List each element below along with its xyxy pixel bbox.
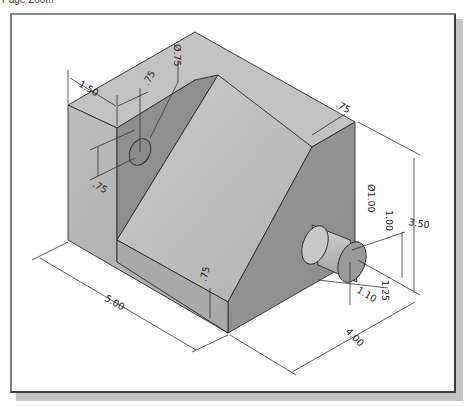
isometric-drawing: 1.50 .75 Ø.75 .75 .75 Ø1.00 1.00 3.50 1.… bbox=[0, 0, 470, 406]
dim-dia-100: Ø1.00 bbox=[366, 184, 377, 213]
dim-100: 1.00 bbox=[384, 210, 395, 231]
dim-110: 1.10 bbox=[355, 284, 379, 304]
dim-400: 4.00 bbox=[344, 326, 367, 349]
dim-125: 1.25 bbox=[380, 280, 391, 301]
dim-500: 5.00 bbox=[103, 292, 127, 312]
dim-350: 3.50 bbox=[408, 216, 431, 231]
dim-dia-75: Ø.75 bbox=[172, 44, 183, 67]
